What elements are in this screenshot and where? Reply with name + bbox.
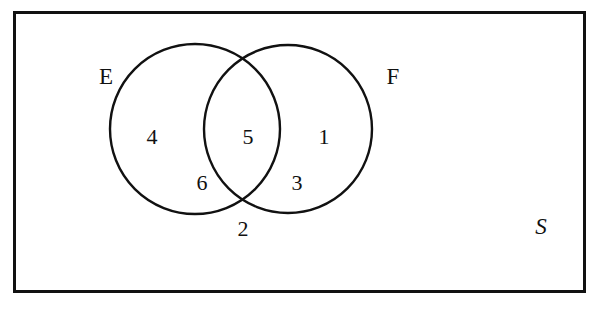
venn-diagram-canvas: E F S 4 5 1 6 3 2 [0,0,595,309]
region-count-f-only-lower: 3 [292,170,303,195]
region-count-intersection: 5 [243,124,254,149]
region-count-outside-both: 2 [238,216,249,241]
region-count-f-only-upper: 1 [319,124,330,149]
region-count-e-only-lower: 6 [197,170,208,195]
universal-set-label: S [535,214,547,239]
set-e-circle [110,44,280,214]
region-count-e-only-upper: 4 [147,124,158,149]
universal-set-rectangle [15,13,585,292]
set-e-label: E [99,64,113,89]
set-f-label: F [387,64,400,89]
set-f-circle [204,45,372,213]
venn-diagram-svg: E F S 4 5 1 6 3 2 [0,0,595,309]
